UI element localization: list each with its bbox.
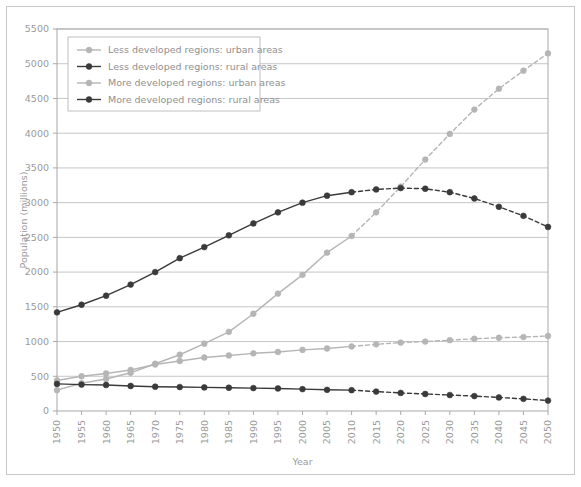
data-point	[177, 384, 183, 390]
legend-swatch-marker	[86, 97, 92, 103]
data-point	[324, 387, 330, 393]
series-line-solid	[57, 236, 352, 390]
x-tick-label: 1985	[223, 420, 234, 444]
data-point	[521, 334, 527, 340]
series-2	[54, 333, 551, 383]
data-point	[324, 346, 330, 352]
series-1	[54, 185, 551, 315]
data-point	[545, 224, 551, 230]
x-axis-title: Year	[291, 456, 312, 467]
data-point	[79, 373, 85, 379]
x-tick-label: 2040	[493, 420, 504, 444]
x-tick-label: 2005	[321, 420, 332, 444]
data-point	[447, 392, 453, 398]
y-axis: 0500100015002000250030003500400045005000…	[25, 23, 57, 416]
data-point	[373, 389, 379, 395]
data-point	[103, 382, 109, 388]
x-tick-label: 2000	[297, 420, 308, 444]
data-point	[496, 335, 502, 341]
data-point	[496, 204, 502, 210]
data-point	[398, 185, 404, 191]
data-point	[349, 344, 355, 350]
data-point	[251, 311, 257, 317]
data-point	[300, 272, 306, 278]
chart-screenshot: 0500100015002000250030003500400045005000…	[0, 0, 581, 487]
series-3	[54, 381, 551, 403]
data-point	[496, 395, 502, 401]
x-tick-label: 2045	[518, 420, 529, 444]
data-point	[300, 200, 306, 206]
data-point	[275, 349, 281, 355]
data-point	[177, 255, 183, 261]
data-point	[226, 329, 232, 335]
data-point	[324, 250, 330, 256]
data-point	[201, 355, 207, 361]
data-point	[79, 382, 85, 388]
data-point	[103, 371, 109, 377]
data-point	[177, 358, 183, 364]
x-tick-label: 2030	[444, 420, 455, 444]
y-tick-label: 1500	[25, 301, 49, 312]
x-axis: 1950195519601965197019751980198519901995…	[51, 411, 553, 444]
data-point	[471, 196, 477, 202]
x-tick-label: 2035	[469, 420, 480, 444]
data-point	[471, 393, 477, 399]
data-point	[422, 186, 428, 192]
data-point	[521, 396, 527, 402]
legend-swatch-marker	[86, 47, 92, 53]
data-point	[324, 193, 330, 199]
data-point	[422, 157, 428, 163]
data-point	[226, 385, 232, 391]
y-tick-label: 5000	[25, 58, 49, 69]
data-point	[300, 386, 306, 392]
data-point	[447, 337, 453, 343]
data-point	[521, 68, 527, 74]
x-tick-label: 2020	[395, 420, 406, 444]
data-point	[349, 387, 355, 393]
y-tick-label: 4500	[25, 93, 49, 104]
x-tick-label: 2025	[420, 420, 431, 444]
data-point	[201, 341, 207, 347]
data-point	[545, 398, 551, 404]
x-tick-label: 1960	[101, 420, 112, 444]
data-point	[275, 209, 281, 215]
data-point	[103, 293, 109, 299]
y-tick-label: 5500	[25, 23, 49, 34]
data-point	[275, 291, 281, 297]
data-point	[275, 386, 281, 392]
data-point	[54, 381, 60, 387]
data-point	[54, 309, 60, 315]
series-line-projected	[352, 53, 548, 236]
x-tick-label: 1990	[248, 420, 259, 444]
y-tick-label: 0	[43, 405, 49, 416]
population-line-chart: 0500100015002000250030003500400045005000…	[0, 0, 581, 487]
chart-canvas: 0500100015002000250030003500400045005000…	[0, 0, 581, 487]
legend-label: Less developed regions: rural areas	[108, 61, 277, 72]
x-tick-label: 1950	[51, 420, 62, 444]
data-point	[201, 384, 207, 390]
data-point	[447, 189, 453, 195]
y-tick-label: 1000	[25, 336, 49, 347]
data-point	[373, 341, 379, 347]
x-tick-label: 1980	[199, 420, 210, 444]
x-tick-label: 1955	[76, 420, 87, 444]
data-point	[398, 390, 404, 396]
data-point	[201, 244, 207, 250]
data-point	[152, 384, 158, 390]
data-point	[226, 353, 232, 359]
legend-label: Less developed regions: urban areas	[108, 44, 283, 55]
y-axis-title: Population (millions)	[18, 172, 29, 269]
data-point	[422, 339, 428, 345]
data-point	[545, 333, 551, 339]
legend-swatch-marker	[86, 80, 92, 86]
data-point	[545, 50, 551, 56]
data-point	[422, 391, 428, 397]
data-point	[152, 362, 158, 368]
data-point	[251, 221, 257, 227]
y-tick-label: 4000	[25, 128, 49, 139]
legend: Less developed regions: urban areasLess …	[68, 37, 286, 111]
data-point	[79, 302, 85, 308]
data-point	[300, 347, 306, 353]
data-point	[128, 383, 134, 389]
data-point	[54, 387, 60, 393]
